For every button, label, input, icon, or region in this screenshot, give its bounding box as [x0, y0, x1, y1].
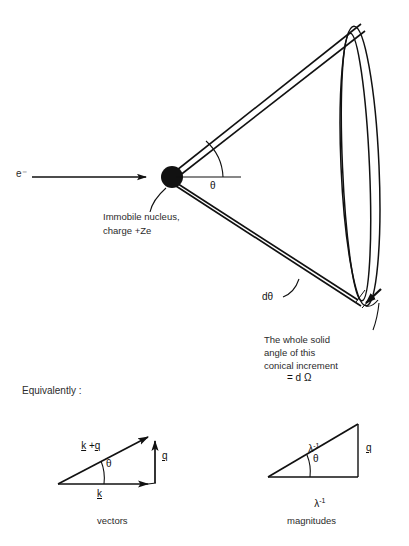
solid-angle-pointer [356, 289, 381, 330]
angular-increment-label: dθ [262, 291, 273, 304]
scatter-angle-arc [206, 141, 223, 177]
vector-hypotenuse-label: k +q [70, 427, 100, 465]
lambda-exponent-base: -1 [319, 497, 325, 504]
magnitude-triangle-caption: magnitudes [287, 515, 336, 526]
scattering-figure: e⁻ θ Immobile nucleus, charge +Ze dθ The… [0, 0, 409, 546]
nucleus-leader [150, 188, 166, 212]
scatter-angle-label: θ [210, 180, 216, 193]
lambda-exponent-top: -1 [313, 442, 319, 449]
vector-plus-symbol: + [86, 440, 95, 451]
vector-base-label: k [97, 488, 102, 501]
figure-canvas [0, 0, 409, 546]
nucleus-caption: Immobile nucleus, charge +Ze [103, 210, 180, 238]
solid-angle-value: = d Ω [287, 372, 311, 385]
vector-q-symbol: q [95, 440, 101, 451]
equivalently-heading: Equivalently : [22, 385, 81, 398]
vector-side-label: q [162, 450, 168, 463]
electron-label: e⁻ [16, 168, 27, 181]
magnitude-side-label: q [366, 442, 372, 455]
solid-angle-note: The whole solid angle of this conical in… [264, 333, 338, 372]
vector-triangle-caption: vectors [97, 515, 128, 526]
cone-lower-edge [172, 180, 361, 306]
dtheta-leader [283, 279, 299, 297]
vector-angle-label: θ [106, 458, 112, 471]
cone-upper-edge [172, 24, 365, 180]
magnitude-angle-label: θ [313, 453, 319, 466]
